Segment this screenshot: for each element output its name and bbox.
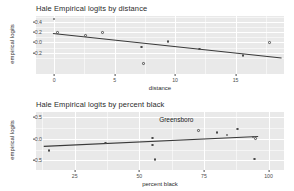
chart-distance: Hale Empirical logits by distance empiri…	[0, 0, 294, 95]
data-point	[151, 144, 154, 147]
x-tick-label: 15	[233, 77, 239, 83]
data-point	[236, 128, 239, 131]
chart-percent-black-panel: Greensboro	[36, 112, 284, 170]
x-tick-label: 25	[72, 173, 78, 179]
chart-percent-black-title: Hale Empirical logits by percent black	[36, 100, 164, 109]
chart-percent-black-plot-area: Greensboro	[36, 112, 284, 170]
data-point	[56, 31, 59, 34]
x-tick-label: 10	[172, 77, 178, 83]
figure-canvas: Hale Empirical logits by distance empiri…	[0, 0, 294, 191]
data-point	[151, 137, 154, 140]
data-point	[48, 149, 51, 152]
chart-percent-black-x-axis-label: percent black	[36, 181, 284, 187]
data-point	[101, 31, 104, 34]
y-tick-label: 0.0	[35, 39, 42, 45]
x-tick-label: 75	[201, 173, 207, 179]
chart-distance-y-axis-label: empirical logits	[9, 20, 15, 68]
y-tick-label: -0.5	[33, 157, 42, 163]
data-point	[167, 40, 170, 43]
y-tick-label: 0.5	[35, 114, 42, 120]
chart-distance-plot-area	[36, 16, 284, 74]
x-tick-label: 0	[53, 77, 56, 83]
y-tick-label: 0.4	[35, 19, 42, 25]
data-point	[242, 54, 245, 57]
data-point	[197, 129, 200, 132]
data-point	[142, 62, 145, 65]
x-tick-label: 50	[136, 173, 142, 179]
data-point	[198, 48, 201, 51]
y-tick-label: 0.2	[35, 29, 42, 35]
chart-distance-panel	[36, 16, 284, 74]
regression-line	[36, 16, 284, 74]
data-point	[154, 158, 157, 161]
chart-distance-title: Hale Empirical logits by distance	[36, 4, 147, 13]
x-tick-label: 5	[113, 77, 116, 83]
data-point	[216, 131, 219, 134]
data-point	[254, 137, 257, 140]
chart-percent-black-y-axis-label: empirical logits	[9, 116, 15, 164]
x-tick-label: 100	[264, 173, 273, 179]
data-point	[268, 41, 271, 44]
y-tick-label: -0.2	[33, 50, 42, 56]
chart-percent-black: Hale Empirical logits by percent black e…	[0, 96, 294, 191]
data-point	[140, 46, 143, 49]
data-point	[84, 34, 87, 37]
point-annotation-label: Greensboro	[159, 115, 193, 122]
chart-distance-x-axis-label: distance	[36, 85, 284, 91]
y-tick-label: 0.0	[35, 136, 42, 142]
